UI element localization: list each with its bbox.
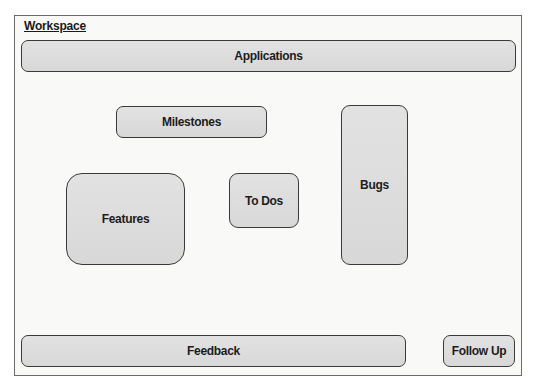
features-area[interactable]: Features [66, 173, 185, 265]
todos-label: To Dos [245, 194, 283, 208]
follow-up-area[interactable]: Follow Up [443, 335, 515, 367]
features-label: Features [102, 212, 150, 226]
workspace-title: Workspace [24, 19, 86, 33]
bugs-label: Bugs [360, 178, 389, 192]
applications-area[interactable]: Applications [21, 40, 516, 72]
feedback-label: Feedback [187, 344, 240, 358]
follow-up-label: Follow Up [452, 344, 507, 358]
applications-label: Applications [234, 49, 302, 63]
feedback-area[interactable]: Feedback [21, 335, 406, 367]
milestones-area[interactable]: Milestones [116, 106, 267, 138]
bugs-area[interactable]: Bugs [341, 105, 408, 265]
todos-area[interactable]: To Dos [229, 173, 299, 228]
milestones-label: Milestones [162, 115, 221, 129]
